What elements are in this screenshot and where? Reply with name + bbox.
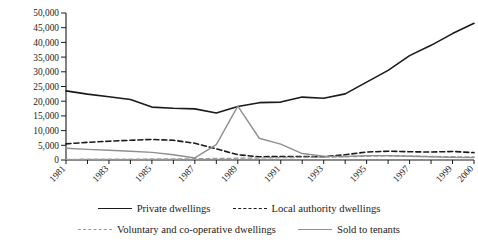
chart-figure: 05,00010,00015,00020,00025,00030,00035,0… — [0, 0, 478, 246]
y-tick-label: 25,000 — [33, 82, 59, 92]
x-tick-label: 1983 — [90, 163, 110, 184]
series-line-1 — [66, 139, 474, 156]
plot-area: 05,00010,00015,00020,00025,00030,00035,0… — [0, 0, 478, 200]
y-tick-label: 10,000 — [33, 126, 59, 136]
x-tick-label: 1997 — [391, 163, 411, 184]
legend-label: Private dwellings — [137, 203, 211, 215]
legend-label: Voluntary and co-operative dwellings — [117, 224, 276, 236]
series-line-3 — [66, 106, 474, 158]
x-tick-label: 1987 — [176, 163, 196, 184]
y-tick-label: 30,000 — [33, 67, 59, 77]
legend-row: Private dwellingsLocal authority dwellin… — [0, 198, 478, 219]
legend-swatch-icon — [298, 229, 332, 230]
legend-swatch-icon — [98, 208, 132, 209]
legend-item[interactable]: Sold to tenants — [298, 224, 400, 236]
x-tick-label: 1991 — [262, 163, 282, 184]
y-axis-ticks — [61, 13, 66, 160]
y-tick-label: 50,000 — [33, 8, 59, 18]
y-tick-label: 20,000 — [33, 97, 59, 107]
x-tick-label: 2000 — [455, 163, 475, 184]
series-line-0 — [66, 23, 474, 113]
series-group — [66, 23, 474, 159]
y-tick-label: 40,000 — [33, 38, 59, 48]
x-tick-label: 1999 — [434, 163, 454, 184]
legend-swatch-icon — [78, 229, 112, 230]
x-tick-label: 1985 — [133, 163, 153, 184]
legend-item[interactable]: Private dwellings — [98, 203, 211, 215]
legend-item[interactable]: Voluntary and co-operative dwellings — [78, 224, 276, 236]
y-tick-label: 5,000 — [38, 141, 59, 151]
legend-row: Voluntary and co-operative dwellingsSold… — [0, 219, 478, 240]
x-tick-label: 1981 — [47, 163, 67, 184]
legend-label: Sold to tenants — [337, 224, 400, 236]
y-tick-label: 45,000 — [33, 23, 59, 33]
chart-legend: Private dwellingsLocal authority dwellin… — [0, 198, 478, 246]
legend-swatch-icon — [233, 208, 267, 209]
x-axis-tick-labels: 1981198319851987198919911993199519971999… — [47, 163, 475, 184]
legend-item[interactable]: Local authority dwellings — [233, 203, 381, 215]
x-tick-label: 1993 — [305, 163, 325, 184]
y-axis-tick-labels: 05,00010,00015,00020,00025,00030,00035,0… — [33, 8, 59, 165]
x-axis-ticks — [66, 160, 474, 164]
line-chart-svg: 05,00010,00015,00020,00025,00030,00035,0… — [0, 0, 478, 200]
y-tick-label: 15,000 — [33, 111, 59, 121]
x-tick-label: 1995 — [348, 163, 368, 184]
legend-label: Local authority dwellings — [272, 203, 381, 215]
x-tick-label: 1989 — [219, 163, 239, 184]
y-tick-label: 35,000 — [33, 53, 59, 63]
axis-frame — [66, 13, 474, 160]
